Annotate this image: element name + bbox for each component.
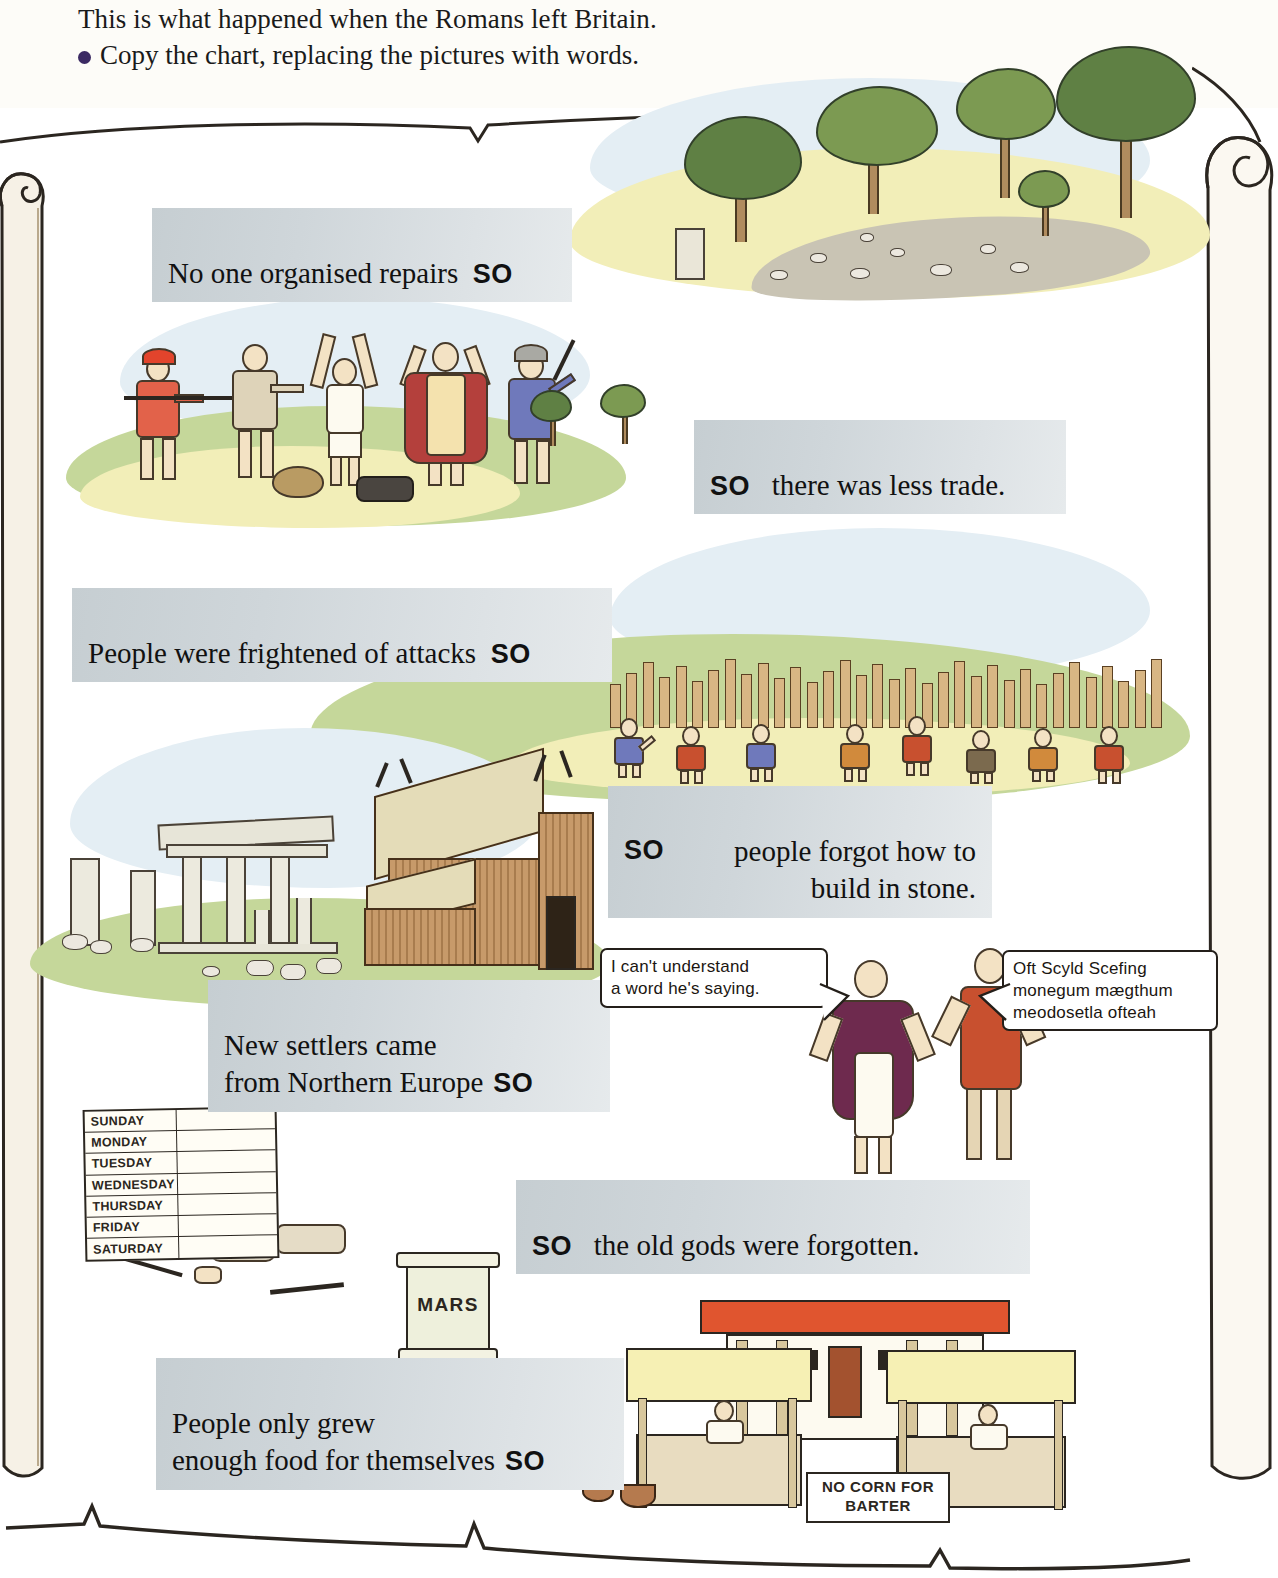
palisade-stake xyxy=(1118,681,1129,728)
palisade-stake xyxy=(692,681,703,728)
day-label: MONDAY xyxy=(85,1131,177,1153)
speech-bubble-saxon: Oft Scyld Scefing monegum mægthum meodos… xyxy=(1002,950,1218,1031)
tree-icon xyxy=(680,110,805,240)
palisade-stake xyxy=(840,660,851,728)
caption-3: People were frightened of attacks SO xyxy=(72,588,612,682)
speech-bubble-roman-tail xyxy=(818,980,858,1026)
day-empty-cell xyxy=(179,1246,277,1248)
villa-tiled-roof xyxy=(700,1300,1010,1334)
palisade-stake xyxy=(872,664,883,728)
mars-altar: MARS xyxy=(396,1238,500,1368)
no-corn-for-barter-sign: NO CORN FOR BARTER xyxy=(806,1472,950,1523)
person-victim-hands-up xyxy=(312,324,376,484)
day-empty-cell xyxy=(177,1118,275,1120)
caption-2-text: there was less trade. xyxy=(772,469,1006,501)
palisade-stake xyxy=(1151,659,1162,728)
intro-sentence: This is what happened when the Romans le… xyxy=(78,4,1178,35)
scroll-parchment: No one organised repairs SO xyxy=(0,108,1278,1578)
day-label: SATURDAY xyxy=(87,1237,179,1260)
caption-2-so: SO xyxy=(710,471,750,501)
day-empty-cell xyxy=(179,1224,277,1226)
task-instruction-text: Copy the chart, replacing the pictures w… xyxy=(100,40,639,71)
tree-icon xyxy=(810,84,945,219)
caption-4-so: SO xyxy=(624,833,664,868)
caption-2: SO there was less trade. xyxy=(694,420,1066,514)
tree-icon xyxy=(530,390,576,446)
caption-6-text: the old gods were forgotten. xyxy=(594,1229,920,1261)
palisade-stake xyxy=(758,663,769,728)
palisade-stake xyxy=(1069,662,1080,728)
palisade-stake xyxy=(708,670,719,728)
palisade-stake xyxy=(741,674,752,728)
scene-overgrown-road xyxy=(560,58,1220,318)
palisade-stake xyxy=(856,675,867,728)
pot-icon xyxy=(620,1484,656,1508)
caption-7-text: People only grew enough food for themsel… xyxy=(172,1407,495,1477)
day-label: THURSDAY xyxy=(86,1195,178,1217)
palisade-stake xyxy=(971,676,982,728)
day-empty-cell xyxy=(178,1161,276,1163)
person-worker xyxy=(896,716,940,776)
person-worker xyxy=(670,726,714,782)
person-bandit-beige xyxy=(220,336,294,484)
person-stallholder xyxy=(702,1400,746,1444)
temple-column xyxy=(226,858,246,944)
person-stallholder xyxy=(966,1404,1010,1450)
day-empty-cell xyxy=(178,1182,276,1184)
day-label: FRIDAY xyxy=(87,1216,179,1238)
palisade-stake xyxy=(1135,670,1146,728)
palisade-stake xyxy=(659,677,670,728)
palisade-stake xyxy=(1086,677,1097,728)
person-worker xyxy=(1022,728,1066,782)
palisade-stake xyxy=(774,678,785,728)
caption-3-so: SO xyxy=(491,639,531,669)
person-worker xyxy=(740,724,784,780)
caption-1-so: SO xyxy=(473,259,513,289)
speech-bubble-saxon-tail xyxy=(972,980,1012,1026)
saxon-wooden-hall xyxy=(360,746,600,976)
market-stall-roof xyxy=(886,1350,1076,1404)
scene-ruins-and-saxon-hall xyxy=(30,728,630,1018)
temple-column xyxy=(182,858,202,944)
palisade-stake xyxy=(676,666,687,728)
person-bandit-red xyxy=(122,342,198,482)
caption-3-text: People were frightened of attacks xyxy=(88,637,476,669)
palisade-stake xyxy=(725,659,736,728)
caption-6: SO the old gods were forgotten. xyxy=(516,1180,1030,1274)
day-label: SUNDAY xyxy=(85,1110,177,1132)
palisade-stake xyxy=(1053,673,1064,728)
day-label: TUESDAY xyxy=(85,1152,177,1174)
palisade-stake xyxy=(1020,669,1031,728)
palisade-stake xyxy=(790,667,801,728)
tree-icon xyxy=(1016,166,1076,236)
palisade-stake xyxy=(1036,684,1047,728)
palisade-stake xyxy=(823,671,834,728)
speech-bubble-roman: I can't understand a word he's saying. xyxy=(600,948,828,1008)
caption-7-so: SO xyxy=(505,1446,545,1476)
market-stall-roof xyxy=(626,1348,812,1402)
caption-1-text: No one organised repairs xyxy=(168,257,458,289)
palisade-fence xyxy=(610,658,1170,728)
caption-5-text: New settlers came from Northern Europe xyxy=(224,1029,483,1099)
palisade-stake xyxy=(987,665,998,728)
mars-altar-label: MARS xyxy=(396,1294,500,1316)
person-worker xyxy=(834,724,878,780)
caption-5: New settlers came from Northern EuropeSO xyxy=(208,980,610,1112)
person-victim-cloak xyxy=(400,320,492,488)
palisade-stake xyxy=(954,661,965,728)
palisade-stake xyxy=(1004,680,1015,728)
bullet-icon xyxy=(78,51,91,64)
day-empty-cell xyxy=(177,1139,275,1141)
day-label: WEDNESDAY xyxy=(86,1174,178,1196)
caption-4-text: people forgot how to build in stone. xyxy=(734,835,976,905)
temple-column xyxy=(270,858,290,944)
tree-icon xyxy=(600,384,650,444)
person-worker xyxy=(1088,726,1132,782)
caption-7: People only grew enough food for themsel… xyxy=(156,1358,624,1490)
day-empty-cell xyxy=(178,1203,276,1205)
palisade-stake xyxy=(807,682,818,728)
caption-4: SOpeople forgot how to build in stone. xyxy=(608,786,992,918)
days-of-week-chart: SUNDAYMONDAYTUESDAYWEDNESDAYTHURSDAYFRID… xyxy=(83,1106,280,1262)
caption-6-so: SO xyxy=(532,1231,572,1261)
days-chart-row: SATURDAY xyxy=(87,1235,277,1260)
